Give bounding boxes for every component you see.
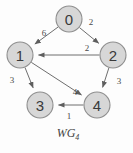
edge-weight-1-3: 3	[10, 75, 15, 85]
edge-weight-0-1: 6	[42, 28, 47, 38]
node-label-0: 0	[65, 11, 73, 28]
edge-weight-4-3: 1	[67, 111, 72, 121]
figure-caption-subscript: 4	[75, 133, 79, 142]
node-label-2: 2	[109, 47, 117, 64]
figure-caption-main: WG	[57, 126, 76, 140]
graph-node-2: 2	[100, 42, 126, 68]
edge-weight-1-4: 4	[73, 87, 78, 97]
graph-canvas: 6223431 01234 WG4	[0, 0, 133, 153]
graph-edge-0-to-1	[35, 27, 58, 44]
nodes-layer: 01234	[7, 6, 126, 118]
node-label-3: 3	[36, 97, 44, 114]
graph-edge-2-to-4	[103, 68, 109, 88]
graph-node-3: 3	[27, 92, 53, 118]
edge-weight-0-2: 2	[89, 17, 94, 27]
edge-weight-2-1: 2	[85, 43, 90, 53]
graph-node-0: 0	[56, 6, 82, 32]
graph-edge-0-to-2	[79, 28, 98, 44]
node-label-4: 4	[93, 97, 101, 114]
weighted-graph-figure: 6223431 01234 WG4	[0, 0, 133, 153]
graph-edge-1-to-3	[25, 68, 33, 88]
graph-node-1: 1	[7, 42, 33, 68]
graph-node-4: 4	[84, 92, 110, 118]
node-label-1: 1	[16, 47, 24, 64]
edge-weight-2-4: 3	[117, 76, 122, 86]
figure-caption: WG4	[57, 126, 80, 142]
